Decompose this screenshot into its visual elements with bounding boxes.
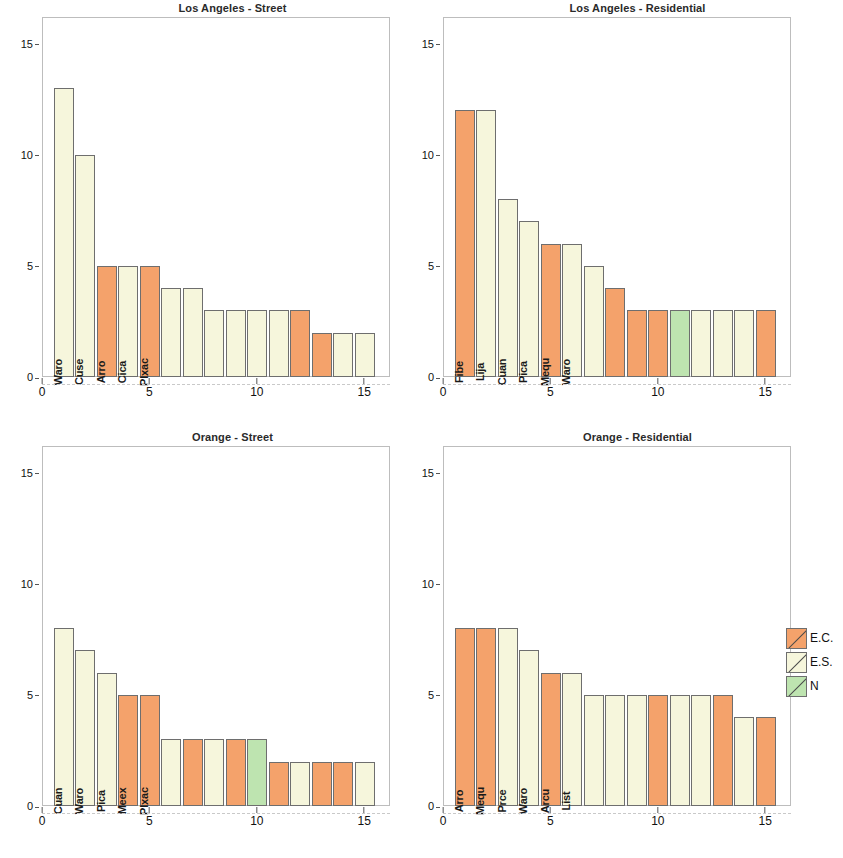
- bar: [670, 695, 690, 806]
- y-axis-tick: 15: [21, 38, 42, 50]
- bar: [247, 739, 267, 806]
- diagonal-line-icon: [786, 652, 807, 673]
- bar: [627, 310, 647, 377]
- bar: [670, 310, 690, 377]
- bar: [161, 739, 181, 806]
- panel-orange-street: Orange - Street Species Abundance CuanWa…: [0, 429, 421, 858]
- panel-los-angeles-residential: Los Angeles - Residential FibeLijaCuanPi…: [421, 0, 842, 429]
- bar: [226, 739, 246, 806]
- legend-item: E.C.: [786, 626, 843, 650]
- bar: [333, 762, 353, 806]
- y-axis-tick: 5: [27, 689, 42, 701]
- x-axis-rule: [443, 384, 791, 385]
- bar: [584, 266, 604, 377]
- panel-title: Orange - Residential: [421, 431, 843, 443]
- x-axis-tick: 15: [358, 377, 371, 399]
- bar: Cuse: [75, 155, 95, 377]
- bar: Mequ: [541, 244, 561, 377]
- x-axis-tick: 15: [759, 377, 772, 399]
- x-axis: 051015: [443, 806, 791, 826]
- x-axis-tick: 15: [358, 806, 371, 828]
- bar: Waro: [562, 244, 582, 377]
- plot-area: FibeLijaCuanPicaMequWaro 051015 051015: [443, 17, 791, 377]
- legend-item: E.S.: [786, 650, 843, 674]
- y-axis-tick: 15: [21, 467, 42, 479]
- bar: [183, 288, 203, 377]
- bar: [312, 333, 332, 377]
- panel-title: Orange - Street: [0, 431, 443, 443]
- bar: [226, 310, 246, 377]
- bar: Pica: [97, 673, 117, 806]
- bar: Arro: [97, 266, 117, 377]
- bar: [691, 695, 711, 806]
- x-axis-tick: 10: [250, 377, 263, 399]
- y-axis-tick: 10: [21, 578, 42, 590]
- bar: [355, 333, 375, 377]
- x-axis-tick: 5: [146, 377, 153, 399]
- bar: [204, 310, 224, 377]
- bar: Waro: [519, 650, 539, 806]
- bar: Prce: [498, 628, 518, 806]
- x-axis-rule: [42, 384, 390, 385]
- bar: Plxac: [140, 695, 160, 806]
- legend: E.C.E.S.N: [786, 626, 843, 698]
- bar: [247, 310, 267, 377]
- panel-title: Los Angeles - Residential: [421, 2, 843, 14]
- x-axis-rule: [42, 813, 390, 814]
- legend-item-label: E.S.: [810, 655, 833, 669]
- legend-item-label: E.C.: [810, 631, 833, 645]
- bar: Pica: [519, 221, 539, 377]
- bar: [756, 717, 776, 806]
- bar: Arro: [455, 628, 475, 806]
- y-axis-tick: 0: [27, 371, 42, 383]
- y-axis-tick: 5: [428, 260, 443, 272]
- bar: [290, 310, 310, 377]
- x-axis-tick: 10: [250, 806, 263, 828]
- plot-area: WaroCuseArroCicaPlxac 051015 051015: [42, 17, 390, 377]
- plot-area: ArroMequPrceWaroArcuList 051015 051015: [443, 446, 791, 806]
- swatch-diagonal-icon: [786, 628, 807, 649]
- species-abundance-figure: Los Angeles - Street Species Abundance W…: [0, 0, 843, 858]
- y-axis-tick: 10: [422, 578, 443, 590]
- legend-item-label: N: [810, 679, 819, 693]
- x-axis-tick: 15: [759, 806, 772, 828]
- x-axis: 051015: [443, 377, 791, 397]
- bar: Meex: [118, 695, 138, 806]
- bar: Fibe: [455, 110, 475, 377]
- y-axis-tick: 0: [27, 800, 42, 812]
- bar: [584, 695, 604, 806]
- panel-orange-residential: Orange - Residential ArroMequPrceWaroArc…: [421, 429, 842, 858]
- bar: Plxac: [140, 266, 160, 377]
- bar: [756, 310, 776, 377]
- y-axis-tick: 5: [428, 689, 443, 701]
- bar: [183, 739, 203, 806]
- bar: List: [562, 673, 582, 806]
- swatch-diagonal-icon: [786, 676, 807, 697]
- y-axis-tick: 15: [422, 38, 443, 50]
- diagonal-line-icon: [786, 628, 807, 649]
- panel-title: Los Angeles - Street: [0, 2, 443, 14]
- plot-area: CuanWaroPicaMeexPlxac 051015 051015: [42, 446, 390, 806]
- y-axis-tick: 5: [27, 260, 42, 272]
- bar-series: WaroCuseArroCicaPlxac: [42, 17, 390, 377]
- bar: Waro: [54, 88, 74, 377]
- bar: [713, 695, 733, 806]
- x-axis-rule: [443, 813, 791, 814]
- bar: [648, 310, 668, 377]
- y-axis-tick: 10: [422, 149, 443, 161]
- bar: [627, 695, 647, 806]
- x-axis-tick: 10: [651, 806, 664, 828]
- bar: [269, 310, 289, 377]
- legend-item: N: [786, 674, 843, 698]
- bar: [333, 333, 353, 377]
- bar: [605, 288, 625, 377]
- y-axis-tick: 10: [21, 149, 42, 161]
- x-axis-tick: 10: [651, 377, 664, 399]
- bar: Waro: [75, 650, 95, 806]
- bar: Cuan: [54, 628, 74, 806]
- bar: [312, 762, 332, 806]
- bar: [713, 310, 733, 377]
- bar: [648, 695, 668, 806]
- swatch-diagonal-icon: [786, 652, 807, 673]
- bar: [204, 739, 224, 806]
